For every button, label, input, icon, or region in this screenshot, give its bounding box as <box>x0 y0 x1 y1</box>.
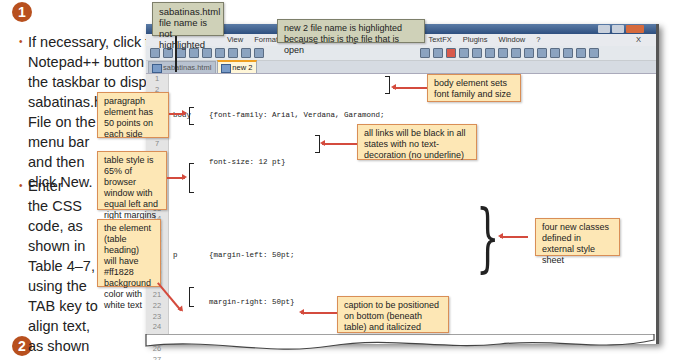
brace-icon <box>189 107 194 125</box>
file-icon <box>152 64 162 73</box>
bullet-icon: • <box>19 176 23 196</box>
preview-icon[interactable] <box>563 48 573 58</box>
tab-sabatinas[interactable]: sabatinas.html <box>148 61 216 73</box>
tab-new-2[interactable]: new 2 <box>217 60 257 73</box>
arrow-left-icon <box>500 236 528 238</box>
maximize-button[interactable] <box>612 25 624 33</box>
spell-check-icon[interactable] <box>550 48 560 58</box>
instruction-line: (Figure 4–19). <box>22 356 118 360</box>
print-icon[interactable] <box>228 48 238 58</box>
wrap-icon[interactable] <box>420 48 430 58</box>
line-number: 1 <box>146 74 168 85</box>
toolbar <box>146 46 656 61</box>
arrow-down-icon <box>175 36 177 72</box>
callout-caption: caption to be positioned on bottom (bene… <box>337 296 449 333</box>
menu-view[interactable]: View <box>227 35 243 44</box>
code-line: body {font-family: Arial, Verdana, Garam… <box>173 110 656 121</box>
line-number: 7 <box>146 139 168 150</box>
document-icon[interactable] <box>576 48 586 58</box>
minimize-button[interactable] <box>598 25 610 33</box>
file-icon <box>221 64 231 73</box>
code-line <box>173 204 656 215</box>
tab-label: sabatinas.html <box>163 63 211 72</box>
arrow-down-icon[interactable] <box>537 48 547 58</box>
record-macro-icon[interactable] <box>446 48 456 58</box>
close-document-button[interactable]: X <box>636 34 641 46</box>
arrow-left-icon <box>301 312 337 314</box>
menu-help[interactable]: ? <box>536 35 540 44</box>
filter-icon[interactable] <box>589 48 599 58</box>
tab-label: new 2 <box>232 63 252 72</box>
save-macro-icon[interactable] <box>498 48 508 58</box>
brace-icon <box>385 76 390 94</box>
arrow-up-icon[interactable] <box>524 48 534 58</box>
close-all-icon[interactable] <box>215 48 225 58</box>
callout-paragraph: paragraph element has 50 points on each … <box>97 92 169 138</box>
brace-icon <box>189 287 194 307</box>
close-button[interactable] <box>626 25 644 33</box>
line-number: 24 <box>146 322 168 333</box>
large-brace-icon: } <box>476 200 500 274</box>
callout-table: table style is 65% of browser window wit… <box>97 151 167 210</box>
step-1-badge: 1 <box>12 2 32 22</box>
callout-th: the element (table heading) will have #f… <box>97 219 161 287</box>
indent-guide-icon[interactable] <box>433 48 443 58</box>
copy-icon[interactable] <box>254 48 264 58</box>
brace-icon <box>315 135 320 153</box>
menu-format[interactable]: Format <box>254 35 278 44</box>
callout-not-highlighted: sabatinas.html file name is not highligh… <box>152 2 224 36</box>
torn-edge-decoration <box>140 334 660 360</box>
cut-icon[interactable] <box>241 48 251 58</box>
arrow-right-icon <box>167 177 185 179</box>
instruction-line: as shown <box>28 336 118 356</box>
sync-scroll-icon[interactable] <box>511 48 521 58</box>
brace-icon <box>189 163 194 193</box>
stop-macro-icon[interactable] <box>459 48 469 58</box>
callout-highlighted: new 2 file name is highlighted because t… <box>277 19 425 43</box>
document-tabs: sabatinas.html new 2 <box>146 61 656 74</box>
menu-plugins[interactable]: Plugins <box>463 35 488 44</box>
line-number: 22 <box>146 301 168 312</box>
menu-textfx[interactable]: TextFX <box>428 35 451 44</box>
arrow-left-icon <box>322 143 357 145</box>
callout-links: all links will be black in all states wi… <box>357 124 477 160</box>
line-number: 23 <box>146 312 168 323</box>
callout-classes: four new classes defined in external sty… <box>535 218 620 256</box>
callout-body: body element sets font family and size <box>427 74 521 102</box>
menu-window[interactable]: Window <box>499 35 526 44</box>
run-macro-multiple-icon[interactable] <box>485 48 495 58</box>
bullet-icon: • <box>19 32 23 52</box>
arrow-right-icon <box>169 113 185 115</box>
instruction-line: align text, <box>28 316 118 336</box>
play-macro-icon[interactable] <box>472 48 482 58</box>
arrow-left-icon <box>393 87 427 89</box>
